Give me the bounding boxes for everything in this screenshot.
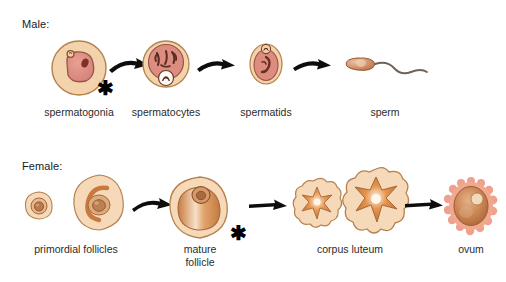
row-title-female: Female: <box>22 160 62 172</box>
stage-label-mature-follicle: mature follicle <box>184 243 217 268</box>
stage-label-ovum: ovum <box>458 243 484 256</box>
stage-label-corpus-luteum: corpus luteum <box>317 243 383 256</box>
stage-label-spermatogonia: spermatogonia <box>44 106 113 119</box>
corpus-luteum-cell-large <box>340 166 412 244</box>
ovum-cell <box>442 176 500 240</box>
mature-follicle-cell <box>167 174 233 246</box>
arrow-mature-to-corpus-luteum <box>247 198 289 218</box>
corpus-luteum-cell <box>290 176 344 238</box>
row-title-male: Male: <box>22 18 49 30</box>
primordial-follicle-cell-large <box>70 172 128 238</box>
arrow-spermatids-to-sperm <box>291 57 333 79</box>
gametogenesis-diagram: Male: spermatogonia ✱ <box>0 0 506 282</box>
stage-label-primordial-follicles: primordial follicles <box>34 243 117 256</box>
spermatid-cell <box>246 41 286 91</box>
asterisk-meiosis-male: ✱ <box>97 78 114 98</box>
arrow-spermatocytes-to-spermatids <box>195 57 237 79</box>
sperm-cell <box>339 50 431 90</box>
arrow-corpus-luteum-to-ovum <box>403 198 445 218</box>
asterisk-meiosis-female: ✱ <box>230 223 247 243</box>
primordial-follicle-cell <box>22 189 56 227</box>
stage-label-spermatocytes: spermatocytes <box>132 106 200 119</box>
stage-label-sperm: sperm <box>370 106 399 119</box>
spermatocyte-cell <box>139 37 193 95</box>
stage-label-spermatids: spermatids <box>240 106 291 119</box>
